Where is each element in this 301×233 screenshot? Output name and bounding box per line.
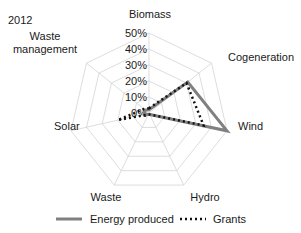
tick-label: 20% xyxy=(125,75,147,87)
tick-label: 30% xyxy=(125,59,147,71)
legend: Energy produced Grants xyxy=(56,213,247,225)
tick-label: 10% xyxy=(125,91,147,103)
axis-label-waste: Waste xyxy=(91,191,122,203)
grid-spoke xyxy=(114,113,149,185)
axis-label-cogeneration: Cogeneration xyxy=(228,51,294,63)
legend-grants-label: Grants xyxy=(213,213,247,225)
chart-title: 2012 xyxy=(8,14,32,26)
axis-label-wind: Wind xyxy=(238,120,263,132)
tick-label: 50% xyxy=(125,27,147,39)
grid-spoke xyxy=(149,113,184,185)
axis-label-waste-management: Wastemanagement xyxy=(13,30,77,55)
radar-chart: 2012 0%10%20%30%40%50% BiomassCogenerati… xyxy=(0,0,301,233)
axis-label-biomass: Biomass xyxy=(129,8,172,20)
legend-energy-label: Energy produced xyxy=(90,213,174,225)
axis-label-hydro: Hydro xyxy=(190,191,219,203)
axis-label-solar: Solar xyxy=(54,120,80,132)
tick-label: 40% xyxy=(125,43,147,55)
